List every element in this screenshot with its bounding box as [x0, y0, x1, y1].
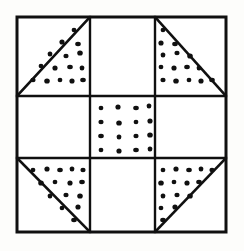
pattern-dot: [197, 65, 202, 70]
pattern-dot: [80, 168, 85, 173]
pattern-dot: [67, 180, 72, 185]
pattern-dot: [67, 65, 73, 70]
pattern-dot: [159, 65, 164, 70]
pattern-dot: [75, 42, 81, 47]
pattern-dot: [199, 166, 204, 171]
pattern-dot: [161, 52, 166, 57]
pattern-dot: [184, 65, 190, 70]
pattern-dot: [80, 65, 85, 70]
pattern-dot: [98, 120, 103, 125]
pattern-dot: [63, 193, 68, 198]
pattern-dot: [196, 180, 202, 185]
cell-fill-top-center: [90, 17, 155, 96]
quilt-block-figure: [0, 0, 244, 251]
pattern-dot: [79, 180, 85, 185]
pattern-dot: [59, 39, 64, 44]
pattern-dot: [133, 134, 138, 139]
pattern-dot: [148, 146, 153, 151]
pattern-dot: [57, 168, 63, 173]
pattern-dot: [44, 166, 49, 171]
pattern-dot: [187, 78, 192, 83]
cell-fill-middle-right: [155, 96, 226, 158]
pattern-dot: [70, 166, 75, 171]
pattern-dot: [44, 78, 50, 83]
pattern-dot: [60, 206, 65, 211]
pattern-dot: [98, 134, 104, 139]
pattern-dot: [134, 120, 139, 125]
pattern-dot: [159, 206, 164, 211]
pattern-dot: [133, 106, 139, 111]
pattern-dot: [58, 78, 63, 83]
pattern-dot: [116, 120, 122, 125]
pattern-dot: [172, 204, 177, 209]
pattern-dot: [69, 78, 74, 83]
pattern-dot: [80, 78, 86, 83]
pattern-dot: [116, 148, 121, 153]
pattern-dot: [48, 51, 53, 56]
pattern-dot: [198, 78, 203, 83]
pattern-dot: [209, 168, 214, 173]
pattern-dot: [172, 180, 177, 185]
pattern-dot: [171, 65, 176, 70]
pattern-dot: [133, 148, 139, 153]
cell-fill-middle-left: [17, 96, 90, 158]
pattern-dot: [52, 65, 57, 70]
pattern-dot: [158, 40, 163, 45]
pattern-dot: [38, 180, 44, 185]
pattern-dot: [99, 106, 104, 111]
pattern-dot: [115, 104, 120, 109]
pattern-dot: [30, 78, 35, 83]
pattern-dot: [173, 78, 179, 83]
cell-fill-group: [17, 17, 226, 232]
pattern-dot: [39, 64, 44, 69]
pattern-dot: [77, 193, 83, 198]
pattern-dot: [147, 118, 152, 123]
pattern-dot: [187, 193, 193, 198]
pattern-dot: [117, 134, 122, 139]
pattern-dot: [31, 168, 36, 173]
pattern-dot: [48, 193, 53, 198]
pattern-dot: [161, 168, 166, 173]
pattern-dot: [187, 53, 193, 58]
pattern-dot: [147, 103, 152, 108]
pattern-dot: [147, 132, 153, 137]
pattern-dot: [160, 78, 165, 83]
pattern-dot: [174, 51, 179, 56]
pattern-dot: [77, 50, 83, 55]
pattern-dot: [99, 148, 104, 153]
pattern-dot: [173, 166, 178, 171]
pattern-dot: [186, 168, 192, 173]
pattern-dot: [184, 180, 189, 185]
pattern-dot: [75, 204, 80, 209]
pattern-dot: [174, 193, 179, 198]
pattern-dot: [53, 180, 58, 185]
quilt-block-diagram: [0, 0, 244, 251]
pattern-dot: [160, 218, 166, 223]
pattern-dot: [158, 180, 164, 185]
cell-fill-bottom-center: [90, 158, 155, 232]
pattern-dot: [72, 28, 77, 33]
pattern-dot: [172, 42, 178, 47]
pattern-dot: [209, 78, 215, 83]
pattern-dot: [63, 54, 68, 59]
pattern-dot: [161, 193, 166, 198]
pattern-dot: [71, 218, 77, 223]
pattern-dot: [161, 28, 166, 33]
